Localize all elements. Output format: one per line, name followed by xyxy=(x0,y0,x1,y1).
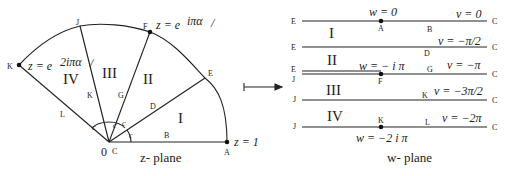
angle-label-c3: c xyxy=(129,131,133,140)
w-label-G: G xyxy=(427,65,433,74)
label-D: D xyxy=(150,102,156,111)
z-region-IV: IV xyxy=(63,71,79,87)
w-region-II: II xyxy=(327,52,337,68)
label-A: A xyxy=(224,148,230,157)
w-eq-v-pi: v = −π xyxy=(447,58,482,72)
label-K-arc: K xyxy=(7,62,13,71)
conformal-map-diagram: A B D E F G J K K L 0 C c c c c I II III… xyxy=(0,0,505,176)
eq-zF: z = e xyxy=(155,18,181,32)
angle-label-c1: c xyxy=(92,123,96,132)
angle-label-c2: c xyxy=(122,119,126,128)
w-points xyxy=(379,19,384,130)
w-region-I: I xyxy=(329,25,334,41)
origin-label: 0 xyxy=(101,145,107,159)
w-point-K xyxy=(379,125,384,130)
w-label-K: K xyxy=(422,91,428,100)
w-region-III: III xyxy=(326,82,341,98)
label-L: L xyxy=(60,110,65,119)
w-left-E1: E xyxy=(291,17,296,26)
point-F xyxy=(148,30,153,35)
label-J: J xyxy=(76,18,79,27)
w-eq-w0: w = 0 xyxy=(369,5,397,19)
w-left-J1: J xyxy=(292,75,295,84)
point-A xyxy=(225,140,230,145)
w-eq-w-ipi: w = − i π xyxy=(359,59,406,73)
w-left-J3: J xyxy=(293,122,296,131)
w-right-C2: C xyxy=(492,43,497,52)
eq-zK-sup: 2iπα xyxy=(60,55,82,69)
w-label-L: L xyxy=(425,118,430,127)
eq-zK-tail: / xyxy=(89,56,95,70)
w-eq-v0: v = 0 xyxy=(456,7,481,21)
z-region-III: III xyxy=(102,65,117,81)
z-region-I: I xyxy=(178,110,183,126)
eq-z-1: z = 1 xyxy=(233,135,259,149)
w-region-IV: IV xyxy=(327,108,343,124)
angle-label-c4: c xyxy=(113,121,117,130)
w-label-B: B xyxy=(427,25,432,34)
w-left-J2: J xyxy=(293,95,296,104)
label-F: F xyxy=(143,22,148,31)
ray-0E xyxy=(109,78,205,142)
z-region-II: II xyxy=(143,71,153,87)
angle-arc-large xyxy=(92,122,125,128)
eq-zK: z = e xyxy=(27,59,53,73)
w-right-C1: C xyxy=(492,17,497,26)
label-C-origin: C xyxy=(112,147,117,156)
w-eq-v-pi-2: v = −π/2 xyxy=(438,34,481,48)
w-plane-caption: w- plane xyxy=(387,150,432,165)
w-right-C4: C xyxy=(492,96,497,105)
w-point-label-A: A xyxy=(378,24,384,33)
w-label-D: D xyxy=(424,49,430,58)
label-G: G xyxy=(118,91,124,100)
eq-zF-sup: iπα xyxy=(187,14,203,28)
w-point-label-K: K xyxy=(378,116,384,125)
eq-zF-tail: / xyxy=(210,16,216,30)
point-K xyxy=(17,63,22,68)
w-right-C3: C xyxy=(492,70,497,79)
maps-to-arrow-icon xyxy=(244,83,282,91)
label-E: E xyxy=(208,69,213,78)
w-left-E3: E xyxy=(291,65,296,74)
w-point-label-F: F xyxy=(378,77,383,86)
w-point-A xyxy=(379,19,384,24)
w-eq-v-3pi-2: v = −3π/2 xyxy=(434,84,483,98)
w-eq-w-2ipi: w = −2 i π xyxy=(356,131,409,145)
label-K-ray: K xyxy=(87,91,93,100)
w-left-E2: E xyxy=(291,43,296,52)
w-right-C5: C xyxy=(492,123,497,132)
w-eq-v-2pi: v = −2π xyxy=(442,111,483,125)
z-plane-caption: z- plane xyxy=(140,150,182,165)
label-B: B xyxy=(164,131,169,140)
